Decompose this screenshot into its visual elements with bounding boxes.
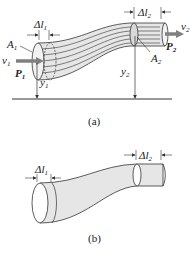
P2-label: P2 xyxy=(166,40,177,54)
caption-b: (b) xyxy=(88,232,101,245)
P1-label: P1 xyxy=(15,67,25,81)
fluid-flow-diagram: Δl1 Δl2 A1 A2 v1 v2 P1 P2 y1 y2 (a) xyxy=(0,0,192,258)
v1-label: v1 xyxy=(2,54,10,68)
pipe-section-ellipse-2 xyxy=(130,23,138,46)
figure-b: Δl1 Δl2 (b) xyxy=(25,149,172,245)
figure-a: Δl1 Δl2 A1 A2 v1 v2 P1 P2 y1 y2 (a) xyxy=(2,6,190,128)
A1-label: A1 xyxy=(6,38,17,52)
dl1-label-b: Δl1 xyxy=(34,163,48,177)
dl2-label: Δl2 xyxy=(137,6,152,20)
y2-label: y2 xyxy=(120,65,130,79)
v2-label: v2 xyxy=(181,20,190,34)
dl1-label: Δl1 xyxy=(33,18,47,32)
caption-a: (a) xyxy=(88,115,101,128)
pipe-end-ellipse-b1 xyxy=(32,183,48,223)
dl1-dimension-b xyxy=(25,174,61,182)
A1-leader xyxy=(20,46,32,52)
dl2-label-b: Δl2 xyxy=(138,149,153,163)
A2-label: A2 xyxy=(150,52,162,66)
pipe-section-ellipse-b2 xyxy=(133,164,141,186)
pipe-body xyxy=(38,23,165,80)
pipe-body-b xyxy=(40,164,163,223)
